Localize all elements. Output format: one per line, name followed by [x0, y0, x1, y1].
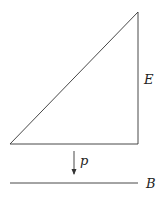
projection-label: p [80, 153, 89, 168]
total-space-triangle [10, 12, 138, 144]
total-space-label: E [143, 72, 154, 87]
fiber-bundle-diagram: E p B [0, 0, 165, 200]
base-space-label: B [145, 176, 156, 191]
arrowhead-icon [72, 169, 77, 175]
